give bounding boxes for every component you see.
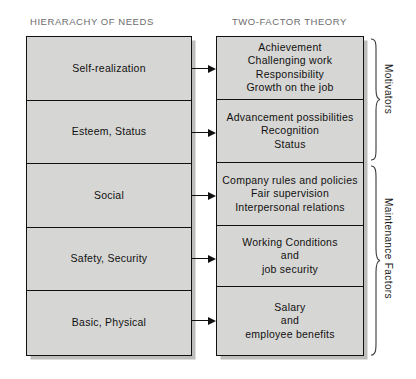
arrow-icon-social xyxy=(192,191,216,200)
group-label-maintenance-factors: Maintenance Factors xyxy=(383,198,394,299)
factor-level-advancement[interactable]: Advancement possibilities Recognition St… xyxy=(217,100,363,163)
factor-level-label: Salary and employee benefits xyxy=(241,301,338,342)
factor-level-salary[interactable]: Salary and employee benefits xyxy=(217,287,363,355)
brace-icon-motivators xyxy=(370,38,381,161)
need-level-label: Safety, Security xyxy=(67,252,152,266)
factor-level-label: Achievement Challenging work Responsibil… xyxy=(242,41,337,95)
need-level-label: Basic, Physical xyxy=(68,316,150,330)
arrow-icon-safety-security xyxy=(192,254,216,263)
factor-level-achievement[interactable]: Achievement Challenging work Responsibil… xyxy=(217,37,363,100)
need-level-basic-physical[interactable]: Basic, Physical xyxy=(27,291,191,355)
brace-icon-maintenance-factors xyxy=(370,165,381,356)
arrow-head xyxy=(208,317,216,325)
need-level-social[interactable]: Social xyxy=(27,164,191,228)
two-factor-theory-stack: Achievement Challenging work Responsibil… xyxy=(216,36,364,356)
factor-level-label: Company rules and policies Fair supervis… xyxy=(218,174,361,215)
factor-level-label: Advancement possibilities Recognition St… xyxy=(222,111,357,152)
arrow-head xyxy=(208,65,216,73)
right-column-title: TWO-FACTOR THEORY xyxy=(232,16,347,27)
need-level-label: Self-realization xyxy=(68,62,149,76)
need-level-esteem-status[interactable]: Esteem, Status xyxy=(27,101,191,165)
need-level-label: Esteem, Status xyxy=(68,125,151,139)
need-level-safety-security[interactable]: Safety, Security xyxy=(27,228,191,292)
factor-level-working-conditions[interactable]: Working Conditions and job security xyxy=(217,226,363,286)
arrow-head xyxy=(208,255,216,263)
arrow-head xyxy=(208,192,216,200)
factor-level-company-rules[interactable]: Company rules and policies Fair supervis… xyxy=(217,163,363,227)
arrow-icon-esteem-status xyxy=(192,128,216,137)
hierarchy-of-needs-stack: Self-realization Esteem, Status Social S… xyxy=(26,36,192,356)
factor-level-label: Working Conditions and job security xyxy=(238,236,341,277)
need-level-self-realization[interactable]: Self-realization xyxy=(27,37,191,101)
left-column-title: HIERARACHY OF NEEDS xyxy=(30,16,154,27)
group-label-motivators: Motivators xyxy=(383,64,394,114)
arrow-icon-basic-physical xyxy=(192,316,216,325)
need-level-label: Social xyxy=(90,189,128,203)
arrow-icon-self-realization xyxy=(192,64,216,73)
arrow-head xyxy=(208,129,216,137)
